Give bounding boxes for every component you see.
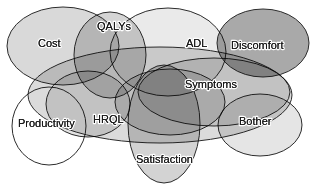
venn-label-cost: Cost — [38, 37, 61, 49]
venn-label-bother: Bother — [239, 115, 272, 127]
venn-label-hrql: HRQL — [93, 113, 124, 125]
venn-label-discomfort: Discomfort — [231, 39, 284, 51]
venn-label-symptoms: Symptoms — [185, 78, 237, 90]
venn-diagram-figure: CostCostQALYsQALYsADLADLDiscomfortDiscom… — [0, 0, 318, 193]
venn-label-qalys: QALYs — [97, 20, 132, 32]
venn-label-adl: ADL — [186, 37, 207, 49]
venn-label-productivity: Productivity — [18, 117, 75, 129]
venn-label-satisfaction: Satisfaction — [136, 153, 193, 165]
venn-diagram-canvas: CostCostQALYsQALYsADLADLDiscomfortDiscom… — [0, 0, 318, 193]
